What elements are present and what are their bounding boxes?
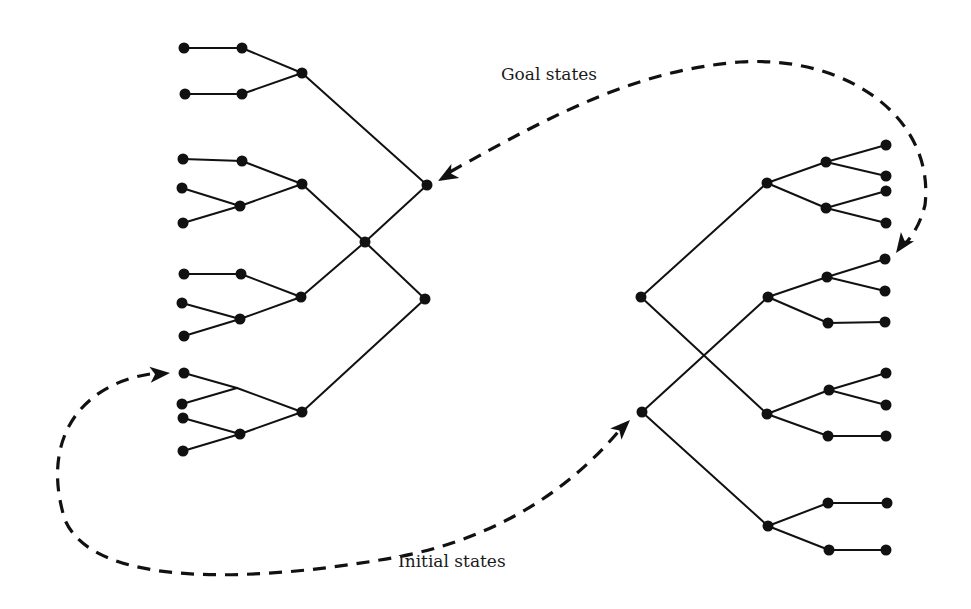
left-tree-edge xyxy=(302,73,427,185)
left-tree-state-node xyxy=(177,298,188,309)
right-tree-state-node xyxy=(881,171,892,182)
left-tree-edge xyxy=(240,184,302,206)
left-tree-state-node xyxy=(360,237,371,248)
right-tree-state-node xyxy=(881,218,892,229)
right-tree-edge xyxy=(768,297,828,323)
left-tree-edge xyxy=(242,73,302,94)
left-tree-state-node xyxy=(180,89,191,100)
left-tree-edge xyxy=(240,412,302,434)
right-tree-state-node xyxy=(881,431,892,442)
left-tree-edge xyxy=(183,434,240,451)
right-tree-state-node xyxy=(637,407,648,418)
right-tree-state-node xyxy=(762,178,773,189)
left-tree-state-node xyxy=(297,179,308,190)
state-space-search-diagram: Goal states Initial states xyxy=(0,0,971,609)
right-tree-edge xyxy=(767,390,829,414)
dashed-connectors xyxy=(58,61,926,574)
right-tree-state-node xyxy=(823,431,834,442)
left-tree-edge xyxy=(365,242,425,299)
right-tree-state-node xyxy=(880,286,891,297)
right-tree-edge xyxy=(768,277,827,297)
left-tree-state-node xyxy=(177,399,188,410)
right-tree-edge xyxy=(829,373,886,390)
left-tree-edge xyxy=(242,48,302,73)
left-tree-state-node xyxy=(235,201,246,212)
left-tree-state-node xyxy=(297,68,308,79)
right-tree-state-node xyxy=(882,498,893,509)
left-tree-state-node xyxy=(178,413,189,424)
right-tree-edge xyxy=(826,191,886,208)
left-tree-state-node xyxy=(420,294,431,305)
left-tree-state-node xyxy=(178,446,189,457)
right-tree-state-node xyxy=(880,317,891,328)
right-tree-state-node xyxy=(636,292,647,303)
right-tree-edge xyxy=(826,208,886,223)
arrowhead-icon xyxy=(149,365,170,383)
right-tree-state-node xyxy=(881,400,892,411)
right-tree-edge xyxy=(642,412,768,526)
left-tree-state-node xyxy=(237,89,248,100)
right-tree-edge xyxy=(768,503,828,526)
left-tree-state-node xyxy=(237,43,248,54)
goal-states-label: Goal states xyxy=(501,64,597,84)
left-tree-edge xyxy=(242,161,302,184)
left-tree-state-node xyxy=(296,292,307,303)
right-tree-state-node xyxy=(822,272,833,283)
left-tree-state-node xyxy=(178,154,189,165)
left-tree-state-node xyxy=(179,269,190,280)
left-tree-state-node xyxy=(179,368,190,379)
left-tree-edge xyxy=(183,418,240,434)
left-tree-state-node xyxy=(235,429,246,440)
left-tree-edge xyxy=(183,159,242,161)
left-tree-state-node xyxy=(178,218,189,229)
left-tree-edge xyxy=(182,303,240,319)
right-tree-edge xyxy=(826,162,886,176)
left-tree-state-node xyxy=(236,269,247,280)
arrowhead-icon xyxy=(889,232,914,258)
left-tree-edge xyxy=(237,388,302,412)
right-tree-state-node xyxy=(763,521,774,532)
left-tree-edge xyxy=(182,188,240,206)
left-tree-edge xyxy=(182,388,237,404)
right-tree-edge xyxy=(826,145,886,162)
right-tree-state-node xyxy=(821,203,832,214)
left-tree-state-node xyxy=(297,407,308,418)
right-tree-edge xyxy=(767,414,828,436)
left-tree-state-node xyxy=(177,183,188,194)
left-tree-state-node xyxy=(179,43,190,54)
right-search-tree xyxy=(636,140,893,556)
initial-states-connector xyxy=(58,374,618,575)
left-tree-state-node xyxy=(237,156,248,167)
right-tree-state-node xyxy=(824,545,835,556)
left-tree-edge xyxy=(241,274,301,297)
right-tree-state-node xyxy=(823,498,834,509)
goal-states-connector xyxy=(450,61,926,244)
right-tree-edge xyxy=(827,259,885,277)
left-tree-state-node xyxy=(179,331,190,342)
left-tree-edge xyxy=(183,206,240,223)
right-tree-edge xyxy=(767,162,826,183)
left-tree-edge xyxy=(302,299,425,412)
left-tree-edge xyxy=(365,185,427,242)
right-tree-state-node xyxy=(824,385,835,396)
right-tree-edge xyxy=(829,390,886,405)
left-tree-edge xyxy=(240,297,301,319)
right-tree-state-node xyxy=(763,292,774,303)
right-tree-state-node xyxy=(821,157,832,168)
left-tree-edge xyxy=(302,184,365,242)
right-tree-state-node xyxy=(881,545,892,556)
right-tree-state-node xyxy=(762,409,773,420)
left-search-tree xyxy=(177,43,433,457)
right-tree-state-node xyxy=(823,318,834,329)
right-tree-state-node xyxy=(881,368,892,379)
right-tree-edge xyxy=(768,526,829,550)
left-tree-state-node xyxy=(235,314,246,325)
left-tree-edge xyxy=(184,319,240,336)
right-tree-edge xyxy=(828,322,885,323)
left-tree-edge xyxy=(301,242,365,297)
right-tree-edge xyxy=(641,183,767,297)
right-tree-edge xyxy=(767,183,826,208)
right-tree-state-node xyxy=(881,186,892,197)
right-tree-state-node xyxy=(880,254,891,265)
right-tree-edge xyxy=(827,277,885,291)
